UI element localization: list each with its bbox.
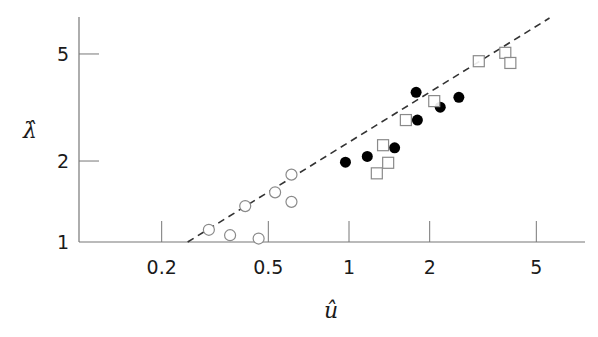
filled-circle-marker (340, 157, 351, 168)
open-square-marker (500, 47, 511, 58)
open-square-marker (473, 56, 484, 67)
filled-circle-marker (453, 92, 464, 103)
y-tick-label: 1 (57, 231, 69, 253)
x-tick-label: 2 (424, 256, 436, 278)
open-square-marker (378, 140, 389, 151)
open-circle-marker (270, 187, 281, 198)
x-tick-label: 1 (343, 256, 355, 278)
filled-circle-marker (389, 142, 400, 153)
open-square-marker (371, 168, 382, 179)
open-circle-marker (286, 196, 297, 207)
scatter-chart: 0.20.5125 125 û λ̂ (0, 0, 598, 337)
filled-circle-marker (411, 87, 422, 98)
filled-circle-marker (362, 151, 373, 162)
open-circle-marker (253, 233, 264, 244)
open-circle-marker (286, 169, 297, 180)
open-square-marker (383, 157, 394, 168)
y-tick-label: 5 (57, 43, 69, 65)
open-square-marker (505, 57, 516, 68)
open-circle-marker (225, 230, 236, 241)
y-axis-title: λ̂ (22, 118, 37, 143)
x-tick-label: 5 (530, 256, 542, 278)
x-tick-label: 0.2 (147, 256, 177, 278)
y-ticks: 125 (57, 43, 99, 253)
open-circle-marker (240, 201, 251, 212)
y-tick-label: 2 (57, 150, 69, 172)
open-circle-marker (203, 224, 214, 235)
filled-circle-marker (412, 115, 423, 126)
open-square-marker (429, 96, 440, 107)
data-points (203, 47, 515, 244)
x-tick-label: 0.5 (253, 256, 283, 278)
x-axis-title: û (324, 298, 338, 323)
open-square-marker (400, 115, 411, 126)
